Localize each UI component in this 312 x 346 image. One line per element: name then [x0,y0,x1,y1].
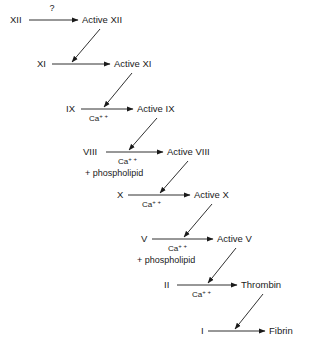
reaction-rows: XIIActive XII?XIActive XIIXActive IXCa+ … [10,3,293,336]
substrate-label-step-xi: XI [37,58,46,69]
reaction-row-step-xi: XIActive XI [37,58,152,69]
calcium-cofactor-label-step-v: Ca+ + [168,243,187,253]
reaction-row-step-xii: XIIActive XII? [10,3,122,25]
product-label-step-ix: Active IX [137,103,175,114]
reaction-row-step-ix: IXActive IXCa+ + [66,103,175,123]
substrate-label-step-i: I [201,325,204,336]
substrate-label-step-viii: VIII [83,146,97,157]
reaction-row-step-ii: IIThrombinCa+ + [164,279,281,299]
product-label-step-i: Fibrin [269,325,293,336]
product-label-step-x: Active X [194,189,230,200]
activation-viii-to-x [160,161,188,193]
reaction-row-step-viii: VIIIActive VIIICa+ ++ phospholipid [83,146,210,178]
substrate-label-step-ix: IX [66,103,76,114]
unknown-mechanism-label-step-xii: ? [49,3,54,13]
product-label-step-xii: Active XII [82,14,122,25]
substrate-label-step-x: X [117,189,124,200]
activation-x-to-v [184,204,212,237]
reaction-row-step-i: IFibrin [201,325,293,336]
calcium-cofactor-label-step-viii: Ca+ + [118,156,137,166]
product-label-step-ii: Thrombin [241,279,281,290]
phospholipid-cofactor-label-step-viii: + phospholipid [85,168,143,178]
phospholipid-cofactor-label-step-v: + phospholipid [137,255,195,265]
activation-thrombin-to-i [235,294,263,329]
product-label-step-v: Active V [217,233,253,244]
calcium-cofactor-label-step-x: Ca+ + [142,199,161,209]
substrate-label-step-v: V [141,233,148,244]
coagulation-cascade-diagram: XIIActive XII?XIActive XIIXActive IXCa+ … [0,0,312,346]
product-label-step-viii: Active VIII [167,146,210,157]
activation-v-to-ii [208,248,236,283]
calcium-cofactor-label-step-ii: Ca+ + [192,289,211,299]
activation-xi-to-ix [104,73,132,107]
substrate-label-step-ii: II [164,279,169,290]
activation-ix-to-viii [129,118,157,150]
activation-xii-to-xi [72,29,100,62]
substrate-label-step-xii: XII [10,14,22,25]
calcium-cofactor-label-step-ix: Ca+ + [89,113,108,123]
reaction-row-step-x: XActive XCa+ + [117,189,230,209]
product-label-step-xi: Active XI [114,58,152,69]
